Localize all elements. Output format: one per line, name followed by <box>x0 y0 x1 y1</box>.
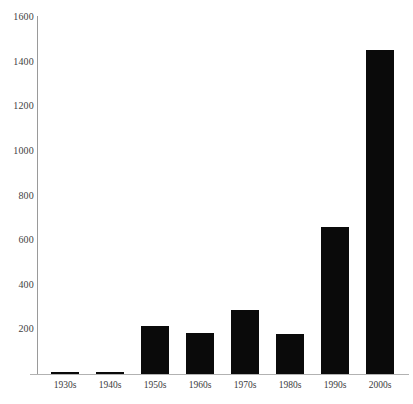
x-tick-label-1950s: 1950s <box>132 380 178 391</box>
y-tick-label: 1000 <box>0 146 34 156</box>
x-tick-label-1980s: 1980s <box>267 380 313 391</box>
y-tick-label: 600 <box>0 235 34 245</box>
x-tick-label-2000s: 2000s <box>357 380 403 391</box>
x-tick-label-1990s: 1990s <box>312 380 358 391</box>
bar-1950s <box>141 326 169 374</box>
y-tick-label: 200 <box>0 324 34 334</box>
y-axis-tick-labels: 1600 1400 1200 1000 800 600 400 200 <box>0 0 34 404</box>
y-tick-label: 1600 <box>0 12 34 22</box>
x-tick-label-1930s: 1930s <box>42 380 88 391</box>
bar-chart: 1600 1400 1200 1000 800 600 400 200 1930… <box>0 0 413 404</box>
x-tick-label-1970s: 1970s <box>222 380 268 391</box>
bar-1930s <box>51 372 79 374</box>
y-tick-label: 800 <box>0 191 34 201</box>
bars-layer: 1930s 1940s 1950s 1960s 1970s 1980s 1990… <box>38 0 413 404</box>
y-tick-label: 1400 <box>0 57 34 67</box>
bar-1990s <box>321 227 349 374</box>
bar-1970s <box>231 310 259 374</box>
x-tick-label-1940s: 1940s <box>87 380 133 391</box>
x-tick-label-1960s: 1960s <box>177 380 223 391</box>
bar-1940s <box>96 372 124 374</box>
bar-2000s <box>366 50 394 374</box>
bar-1980s <box>276 334 304 374</box>
y-tick-label: 1200 <box>0 101 34 111</box>
bar-1960s <box>186 333 214 374</box>
y-tick-label: 400 <box>0 280 34 290</box>
